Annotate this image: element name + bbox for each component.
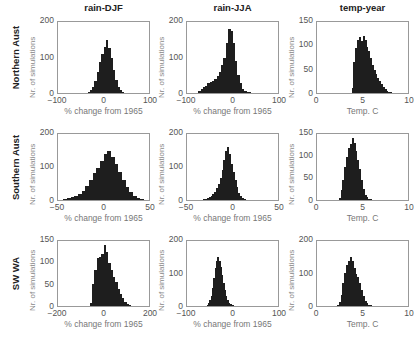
- plot-area: [186, 21, 279, 94]
- x-tick-label: 0: [89, 308, 119, 318]
- x-tick-label: 0: [218, 95, 248, 105]
- y-axis-label: Nr. of simulations: [157, 144, 166, 205]
- column-title-rain-jja: rain-JJA: [186, 2, 279, 13]
- x-tick-label: −50: [171, 202, 201, 212]
- x-tick-label: 10: [394, 202, 419, 212]
- column-title-temp-year: temp-year: [316, 2, 409, 13]
- x-tick-label: 5: [348, 95, 378, 105]
- row-label-sw-wa: SW WA: [10, 229, 21, 319]
- x-axis-label: % change from 1965: [186, 319, 279, 329]
- x-tick-label: 0: [89, 95, 119, 105]
- y-axis-label: Nr. of simulations: [287, 37, 296, 98]
- plot-area: [316, 240, 409, 307]
- x-axis-label: % change from 1965: [57, 106, 150, 116]
- x-tick-label: 5: [348, 202, 378, 212]
- x-axis-label: % change from 1965: [57, 319, 150, 329]
- x-tick-label: 10: [394, 95, 419, 105]
- y-tick-label: 200: [291, 234, 313, 244]
- y-tick-label: 200: [161, 234, 183, 244]
- x-tick-label: −100: [171, 95, 201, 105]
- y-axis-label: Nr. of simulations: [28, 37, 37, 98]
- y-tick-label: 150: [291, 15, 313, 25]
- x-tick-label: 0: [301, 95, 331, 105]
- x-tick-label: 0: [301, 202, 331, 212]
- x-axis-label: % change from 1965: [186, 213, 279, 223]
- x-tick-label: −100: [42, 95, 72, 105]
- x-tick-label: −200: [42, 308, 72, 318]
- y-tick-label: 200: [161, 15, 183, 25]
- y-axis-label: Nr. of simulations: [157, 250, 166, 311]
- x-tick-label: 10: [394, 308, 419, 318]
- plot-area: [186, 240, 279, 307]
- y-tick-label: 150: [291, 127, 313, 137]
- y-tick-label: 200: [32, 127, 54, 137]
- y-tick-label: 150: [32, 234, 54, 244]
- x-tick-label: 0: [218, 308, 248, 318]
- y-axis-label: Nr. of simulations: [28, 250, 37, 311]
- y-tick-label: 200: [32, 15, 54, 25]
- x-axis-label: Temp. C: [316, 106, 409, 116]
- x-tick-label: 0: [218, 202, 248, 212]
- x-tick-label: −100: [171, 308, 201, 318]
- x-tick-label: 0: [301, 308, 331, 318]
- x-axis-label: Temp. C: [316, 319, 409, 329]
- column-title-rain-djf: rain-DJF: [57, 2, 150, 13]
- x-axis-label: Temp. C: [316, 213, 409, 223]
- row-label-southern-aust: Southern Aust: [10, 123, 21, 213]
- x-tick-label: 0: [89, 202, 119, 212]
- plot-area: [316, 133, 409, 201]
- y-axis-label: Nr. of simulations: [157, 37, 166, 98]
- x-axis-label: % change from 1965: [186, 106, 279, 116]
- row-label-northern-aust: Northern Aust: [10, 13, 21, 103]
- y-axis-label: Nr. of simulations: [287, 144, 296, 205]
- plot-area: [57, 21, 150, 94]
- plot-area: [186, 133, 279, 201]
- histogram-bar: [129, 305, 132, 306]
- x-tick-label: −50: [42, 202, 72, 212]
- plot-area: [57, 240, 150, 307]
- plot-area: [316, 21, 409, 94]
- x-axis-label: % change from 1965: [57, 213, 150, 223]
- y-tick-label: 200: [161, 127, 183, 137]
- y-axis-label: Nr. of simulations: [28, 144, 37, 205]
- y-axis-label: Nr. of simulations: [287, 250, 296, 311]
- histogram-bar: [390, 92, 392, 93]
- plot-area: [57, 133, 150, 201]
- x-tick-label: 5: [348, 308, 378, 318]
